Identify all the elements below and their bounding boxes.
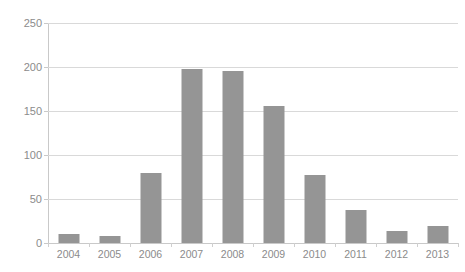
bar-2013[interactable] <box>427 226 448 243</box>
x-axis-tick-mark <box>212 243 213 247</box>
bar-slot <box>171 23 212 243</box>
y-axis-tick-label: 50 <box>4 194 42 205</box>
y-axis-tick-label: 250 <box>4 18 42 29</box>
bar-slot <box>376 23 417 243</box>
x-axis-tick-mark <box>89 243 90 247</box>
bar-2006[interactable] <box>140 173 161 243</box>
x-axis-tick-mark <box>376 243 377 247</box>
chart-title <box>0 0 465 5</box>
x-axis-tick-label: 2011 <box>335 248 376 261</box>
x-axis-tick-mark <box>335 243 336 247</box>
bar-2010[interactable] <box>304 175 325 243</box>
bar-2008[interactable] <box>222 71 243 243</box>
bar-2005[interactable] <box>99 236 120 243</box>
plot-area <box>48 23 458 243</box>
bar-slot <box>294 23 335 243</box>
x-axis-tick-mark <box>48 243 49 247</box>
x-axis-tick-label: 2012 <box>376 248 417 261</box>
bar-slot <box>130 23 171 243</box>
y-axis-tick-label: 0 <box>4 238 42 249</box>
y-axis-tick-label: 150 <box>4 106 42 117</box>
x-axis-tick-mark <box>253 243 254 247</box>
x-axis-tick-mark <box>458 243 459 247</box>
y-axis-tick-label: 200 <box>4 62 42 73</box>
bar-2007[interactable] <box>181 69 202 243</box>
x-axis-tick-mark <box>294 243 295 247</box>
x-axis-tick-label: 2004 <box>48 248 89 261</box>
x-axis-tick-label: 2010 <box>294 248 335 261</box>
bar-2009[interactable] <box>263 106 284 243</box>
bar-slot <box>48 23 89 243</box>
x-axis-tick-label: 2013 <box>417 248 458 261</box>
bar-slot <box>212 23 253 243</box>
x-axis-tick-label: 2008 <box>212 248 253 261</box>
x-axis-tick-mark <box>171 243 172 247</box>
bar-2011[interactable] <box>345 210 366 243</box>
x-axis-tick-mark <box>417 243 418 247</box>
bar-slot <box>253 23 294 243</box>
y-axis-labels: 250 200 150 100 50 0 <box>0 0 42 272</box>
x-axis-tick-label: 2005 <box>89 248 130 261</box>
bar-chart: 250 200 150 100 50 0 200 <box>0 0 465 272</box>
x-axis-tick-label: 2006 <box>130 248 171 261</box>
bar-2004[interactable] <box>58 234 79 243</box>
bar-slot <box>335 23 376 243</box>
bar-2012[interactable] <box>386 231 407 243</box>
y-axis-tick-label: 100 <box>4 150 42 161</box>
bar-slot <box>89 23 130 243</box>
x-axis-tick-label: 2007 <box>171 248 212 261</box>
x-axis-labels: 2004 2005 2006 2007 2008 2009 2010 2011 … <box>48 248 458 264</box>
x-axis-tick-mark <box>130 243 131 247</box>
x-axis-tick-label: 2009 <box>253 248 294 261</box>
bar-slot <box>417 23 458 243</box>
